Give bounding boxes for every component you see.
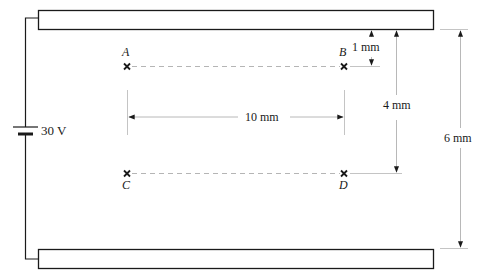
dimension-label-10mm: 10 mm [245,110,279,125]
dimension-label-1mm: 1 mm [352,40,380,55]
extension-lines [128,30,469,249]
capacitor-diagram [0,0,483,278]
point-marker-a [124,64,130,70]
battery-icon [13,127,38,134]
point-marker-b [341,64,347,70]
point-label-d: D [339,178,348,193]
point-marker-d [341,171,347,177]
point-label-a: A [122,45,129,60]
dimension-label-6mm: 6 mm [444,131,472,146]
top-plate [39,11,434,30]
circuit-wire [26,18,39,259]
battery-voltage-label: 30 V [41,123,66,139]
point-label-b: B [339,45,346,60]
dimension-label-4mm: 4 mm [383,98,411,113]
point-marker-c [124,171,130,177]
point-label-c: C [122,178,130,193]
bottom-plate [39,250,434,269]
